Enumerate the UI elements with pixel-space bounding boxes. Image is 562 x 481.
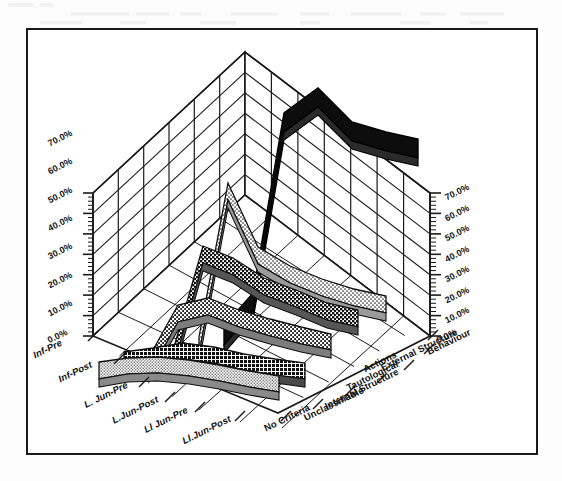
value-axis-right-spine [430,193,441,336]
3d-ribbon-chart [0,0,562,481]
value-axis-left-spine [83,193,93,336]
chart-screenshot: 70.0% 60.0% 50.0% 40.0% 30.0% 20.0% 10.0… [0,0,562,481]
